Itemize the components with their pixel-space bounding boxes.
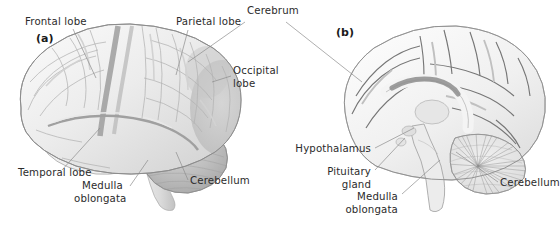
panel-letter-a: (a) xyxy=(36,32,53,45)
label-frontal-lobe: Frontal lobe xyxy=(25,16,87,27)
label-cerebellum-b: Cerebellum xyxy=(500,177,560,188)
label-occipital-lobe-line1: Occipital xyxy=(233,65,279,76)
label-pituitary-line1: Pituitary xyxy=(327,166,371,177)
label-pituitary-line2: gland xyxy=(342,179,371,190)
label-medulla-b-line1: Medulla xyxy=(357,191,398,202)
label-medulla-a-line2: oblongata xyxy=(74,193,127,204)
figure-canvas: (a) (b) Cerebrum Frontal lobe Parietal l… xyxy=(0,0,560,228)
panel-letter-b: (b) xyxy=(336,26,354,39)
label-parietal-lobe: Parietal lobe xyxy=(176,16,241,27)
label-medulla-b-line2: oblongata xyxy=(345,204,398,215)
label-hypothalamus: Hypothalamus xyxy=(295,143,371,154)
hypothalamus-region xyxy=(402,126,416,136)
label-cerebellum-a: Cerebellum xyxy=(190,175,250,186)
label-medulla-a-line1: Medulla xyxy=(82,180,123,191)
label-cerebrum: Cerebrum xyxy=(247,5,299,16)
brain-anatomy-figure: (a) (b) Cerebrum Frontal lobe Parietal l… xyxy=(0,0,560,228)
label-temporal-lobe: Temporal lobe xyxy=(17,167,92,178)
label-occipital-lobe-line2: lobe xyxy=(233,78,255,89)
thalamus xyxy=(415,100,449,124)
